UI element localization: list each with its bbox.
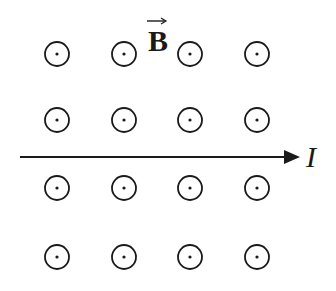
- field-out-of-page-icon: [178, 108, 202, 132]
- field-out-of-page-icon: [178, 42, 202, 66]
- field-label: B: [148, 26, 168, 56]
- field-out-of-page-icon: [245, 245, 269, 269]
- current-wire-arrow: [20, 150, 300, 164]
- vector-arrow-icon: [146, 16, 168, 26]
- field-out-of-page-icon: [245, 108, 269, 132]
- field-out-of-page-icon: [112, 42, 136, 66]
- field-out-of-page-icon: [45, 245, 69, 269]
- field-out-of-page-icon: [112, 245, 136, 269]
- field-out-of-page-icon: [45, 176, 69, 200]
- field-out-of-page-icon: [178, 176, 202, 200]
- field-out-of-page-icon: [178, 245, 202, 269]
- current-label: I: [306, 142, 316, 172]
- field-out-of-page-icon: [245, 42, 269, 66]
- field-out-of-page-icon: [245, 176, 269, 200]
- field-out-of-page-icon: [112, 176, 136, 200]
- field-out-of-page-icon: [112, 108, 136, 132]
- field-out-of-page-icon: [45, 42, 69, 66]
- field-label-text: B: [148, 24, 168, 57]
- field-out-of-page-icon: [45, 108, 69, 132]
